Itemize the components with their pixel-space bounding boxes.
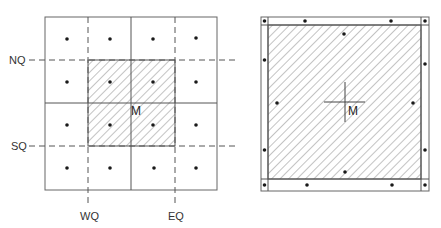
eq-label: EQ <box>168 210 184 222</box>
wq-label: WQ <box>80 210 99 222</box>
left-diagram: NQ SQ WQ EQ M <box>9 17 236 222</box>
center-m-label: M <box>131 104 141 118</box>
sq-label: SQ <box>11 140 27 152</box>
nq-label: NQ <box>9 54 26 66</box>
right-diagram: M <box>261 17 429 191</box>
center-m-label: M <box>348 104 358 118</box>
diagram-canvas: NQ SQ WQ EQ M M <box>0 0 441 228</box>
